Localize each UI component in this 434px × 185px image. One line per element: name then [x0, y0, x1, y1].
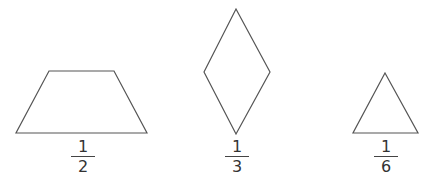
rhombus-fraction-label: 1 3 [225, 139, 249, 175]
shapes-diagram [0, 0, 434, 185]
trapezoid-shape [16, 71, 147, 133]
triangle-fraction-denominator: 6 [374, 159, 398, 175]
rhombus-fraction-denominator: 3 [225, 159, 249, 175]
trapezoid-fraction-numerator: 1 [71, 139, 95, 155]
rhombus-fraction-numerator: 1 [225, 139, 249, 155]
trapezoid-fraction-denominator: 2 [71, 159, 95, 175]
triangle-shape [353, 73, 418, 133]
rhombus-shape [204, 9, 270, 134]
triangle-fraction-label: 1 6 [374, 139, 398, 175]
trapezoid-fraction-label: 1 2 [71, 139, 95, 175]
triangle-fraction-numerator: 1 [374, 139, 398, 155]
